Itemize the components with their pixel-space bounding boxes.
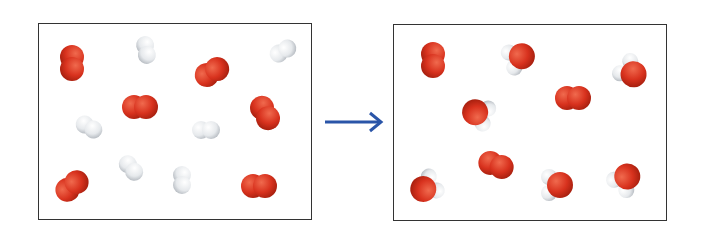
oxygen-molecule — [60, 45, 84, 81]
hydrogen-molecule — [266, 36, 299, 66]
hydrogen-molecule — [135, 35, 158, 66]
oxygen-molecule — [122, 95, 158, 119]
oxygen-molecule — [246, 91, 285, 134]
oxygen-molecule — [241, 174, 277, 198]
oxygen-molecule — [421, 42, 445, 78]
oxygen-molecule — [190, 53, 233, 92]
water-molecule — [609, 50, 654, 95]
water-molecule — [499, 37, 540, 78]
oxygen-molecule — [50, 165, 93, 207]
oxygen-molecule — [555, 86, 591, 110]
hydrogen-molecule — [115, 151, 147, 184]
molecule-canvas — [0, 0, 702, 237]
hydrogen-molecule — [72, 112, 105, 142]
water-molecule — [404, 166, 448, 210]
hydrogen-molecule — [192, 121, 220, 139]
water-molecule — [541, 169, 573, 201]
reaction-arrow — [325, 113, 381, 131]
water-molecule — [603, 156, 648, 201]
water-molecule — [457, 93, 498, 134]
oxygen-molecule — [475, 148, 517, 183]
hydrogen-molecule — [173, 166, 191, 194]
